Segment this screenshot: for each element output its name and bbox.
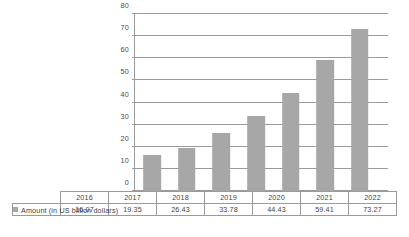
y-axis-tick-label: 60 [121,45,129,54]
y-axis-tick-label: 80 [121,1,129,10]
bar [213,133,231,191]
table-value-cell: 33.78 [205,204,253,216]
plot-area-wrapper: 01020304050607080 [134,14,377,191]
table-header-cell: 2020 [253,192,301,204]
table-header-cell: 2019 [205,192,253,204]
plot-area: 01020304050607080 [134,14,377,191]
bar [316,60,334,191]
data-table: 2016 2017 2018 2019 2020 2021 2022 Amoun… [12,191,397,216]
legend-swatch-icon [13,207,18,212]
legend-entry: Amount (in US billion dollars) [13,204,61,216]
table-header-row: 2016 2017 2018 2019 2020 2021 2022 [13,192,397,204]
bar-slot [135,14,170,191]
table-value-cell: 26.43 [157,204,205,216]
bar [247,116,265,191]
bar-slot [239,14,274,191]
bar-slot [273,14,308,191]
bar [178,148,196,191]
bars-group [135,14,377,191]
table-header-cell: 2018 [157,192,205,204]
table-header-cell: 2021 [301,192,349,204]
table-value-cell: 44.43 [253,204,301,216]
y-axis-tick-label: 40 [121,89,129,98]
bar [143,155,161,191]
table-spacer-cell [13,192,61,204]
bar-slot [204,14,239,191]
table-header-cell: 2016 [61,192,109,204]
legend-label: Amount (in US billion dollars) [21,205,118,214]
bar-chart-figure: 01020304050607080 2016 2017 2018 2019 20… [0,0,409,237]
table-header-cell: 2017 [109,192,157,204]
y-axis-tick-label: 30 [121,111,129,120]
bar-slot [342,14,377,191]
y-axis-tick-label: 50 [121,67,129,76]
table-value-cell: 59.41 [301,204,349,216]
y-axis-tick-label: 70 [121,23,129,32]
table-value-cell: 73.27 [349,204,397,216]
y-axis-tick-label: 10 [121,155,129,164]
bar [351,29,369,191]
bar-slot [308,14,343,191]
y-axis-tick-label: 0 [125,178,129,187]
bar [282,93,300,191]
bar-slot [170,14,205,191]
table-value-row: Amount (in US billion dollars) 16.07 19.… [13,204,397,216]
y-axis-tick-label: 20 [121,133,129,142]
table-header-cell: 2022 [349,192,397,204]
